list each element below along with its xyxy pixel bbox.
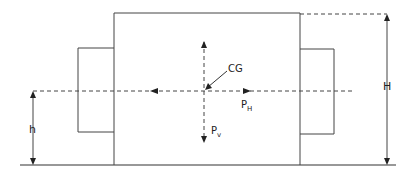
force-diagram: H CG PH Pv h: [0, 0, 416, 177]
arrow-up-icon: [201, 41, 207, 48]
cg-label: CG: [228, 63, 243, 74]
height-total-label: H: [383, 80, 391, 93]
arrow-left-icon: [150, 88, 158, 94]
cg-pointer-line: [208, 71, 227, 87]
pv-label: Pv: [211, 125, 221, 139]
ph-label: PH: [241, 99, 252, 113]
height-cg-label: h: [29, 123, 36, 136]
arrow-down-icon: [201, 136, 207, 143]
left-block: [78, 48, 114, 132]
arrow-right-icon: [243, 88, 251, 94]
